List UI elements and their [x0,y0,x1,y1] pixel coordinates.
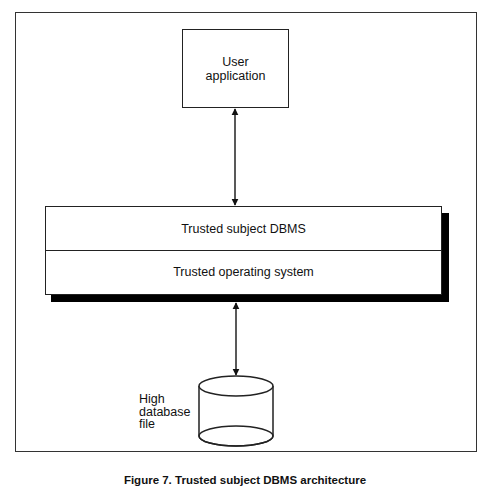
db-label-line1: High [139,393,190,406]
database-cylinder-icon [199,376,273,446]
figure-caption: Figure 7. Trusted subject DBMS architect… [0,474,490,486]
db-label-line3: file [139,418,190,431]
high-database-file-label: High database file [139,393,190,431]
